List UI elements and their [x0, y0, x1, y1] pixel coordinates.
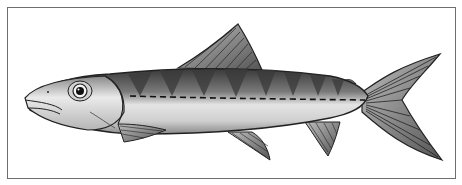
dorsal-fin: [178, 24, 262, 70]
fish-illustration: [0, 0, 462, 185]
anal-fin: [305, 122, 340, 156]
tail-fin: [362, 54, 442, 160]
pelvic-fin: [228, 132, 270, 160]
eye: [68, 81, 92, 101]
nostril: [47, 91, 49, 93]
